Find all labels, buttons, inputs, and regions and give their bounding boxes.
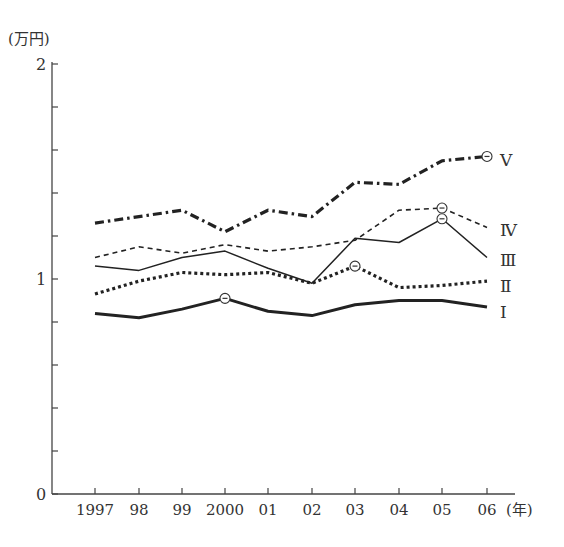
series-line-II <box>95 266 487 294</box>
x-tick-label: 01 <box>258 501 277 519</box>
series-label: Ⅰ <box>500 302 507 322</box>
series-label: Ⅲ <box>500 250 516 270</box>
series-label: Ⅱ <box>500 276 512 296</box>
x-tick-label: 2000 <box>206 501 244 519</box>
series-line-I <box>95 298 487 317</box>
y-tick-label: 1 <box>36 270 46 289</box>
x-tick-label: 06 <box>477 501 496 519</box>
y-tick-label: 0 <box>36 485 46 504</box>
x-tick-label: 02 <box>302 501 321 519</box>
x-tick-label: 99 <box>172 501 191 519</box>
series-label: Ⅴ <box>499 150 513 170</box>
y-tick-label: 2 <box>36 55 46 74</box>
x-axis-tick-labels: 199798992000010203040506 <box>76 501 497 519</box>
series-line-III <box>95 219 487 283</box>
series-label: Ⅳ <box>500 220 518 240</box>
series-lines <box>95 151 492 317</box>
x-tick-label: 1997 <box>76 501 114 519</box>
line-chart: (万円) 012 199798992000010203040506 (年) ⅤⅣ… <box>0 0 564 547</box>
x-tick-label: 05 <box>432 501 451 519</box>
series-line-V <box>95 156 487 231</box>
axes: 012 <box>36 55 515 504</box>
y-axis-unit-label: (万円) <box>8 30 50 48</box>
x-axis-unit-label: (年) <box>506 501 533 519</box>
x-tick-label: 03 <box>345 501 364 519</box>
x-tick-label: 98 <box>129 501 148 519</box>
series-labels: ⅤⅣⅢⅡⅠ <box>499 150 518 322</box>
x-tick-label: 04 <box>389 501 408 519</box>
